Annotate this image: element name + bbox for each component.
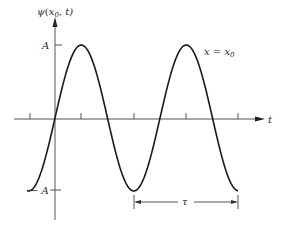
period-right-arrow-icon <box>231 200 238 204</box>
wave-diagram: ψ(x0, t) t A − A x = x0 τ <box>0 0 282 227</box>
curve-annotation: x = x0 <box>204 46 235 59</box>
y-axis-label: ψ(x0, t) <box>37 6 73 19</box>
period-label: τ <box>182 196 188 207</box>
amplitude-top-label: A <box>41 40 49 51</box>
amplitude-bottom-label: − A <box>30 185 49 196</box>
period-left-arrow-icon <box>134 200 141 204</box>
wave-curve <box>27 45 238 191</box>
x-axis-arrow-icon <box>255 117 265 122</box>
x-axis-ticks <box>30 113 238 119</box>
x-axis-label: t <box>268 114 273 125</box>
